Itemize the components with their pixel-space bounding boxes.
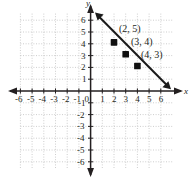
graph-canvas — [0, 0, 193, 178]
y-tick-label-4: 4 — [81, 40, 86, 49]
x-tick-label-4: 4 — [135, 95, 140, 104]
y-tick-label-neg4: -4 — [77, 134, 85, 143]
y-tick-label-neg1: -1 — [78, 99, 86, 108]
x-tick-label-neg5: -5 — [27, 95, 35, 104]
x-tick-label-6: 6 — [159, 95, 164, 104]
x-tick-label-neg6: -6 — [15, 95, 23, 104]
point-label-2-5: (2, 5) — [119, 24, 141, 34]
y-axis-label: y — [86, 0, 90, 8]
y-tick-label-neg2: -2 — [77, 111, 85, 120]
y-tick-label-1: 1 — [82, 75, 87, 84]
x-tick-label-3: 3 — [124, 95, 129, 104]
y-tick-label-neg5: -5 — [77, 146, 85, 155]
x-tick-label-5: 5 — [147, 95, 152, 104]
x-axis-label: x — [184, 87, 188, 96]
y-tick-label-5: 5 — [81, 28, 86, 37]
y-tick-label-6: 6 — [81, 16, 86, 25]
x-tick-label-2: 2 — [112, 95, 117, 104]
x-tick-label-neg2: -2 — [62, 95, 70, 104]
x-tick-label-1: 1 — [100, 95, 105, 104]
y-tick-label-3: 3 — [81, 52, 86, 61]
y-tick-label-2: 2 — [81, 63, 86, 72]
x-tick-label-neg4: -4 — [39, 95, 47, 104]
point-label-4-3: (4, 3) — [141, 50, 163, 60]
x-tick-label-neg3: -3 — [50, 95, 58, 104]
y-tick-label-neg3: -3 — [77, 122, 85, 131]
coordinate-plane-figure: -6 -5 -4 -3 -2 -1 0 1 2 3 4 5 6 6 5 4 3 … — [0, 0, 193, 178]
point-label-3-4: (3, 4) — [131, 37, 153, 47]
y-tick-label-neg6: -6 — [77, 158, 85, 167]
